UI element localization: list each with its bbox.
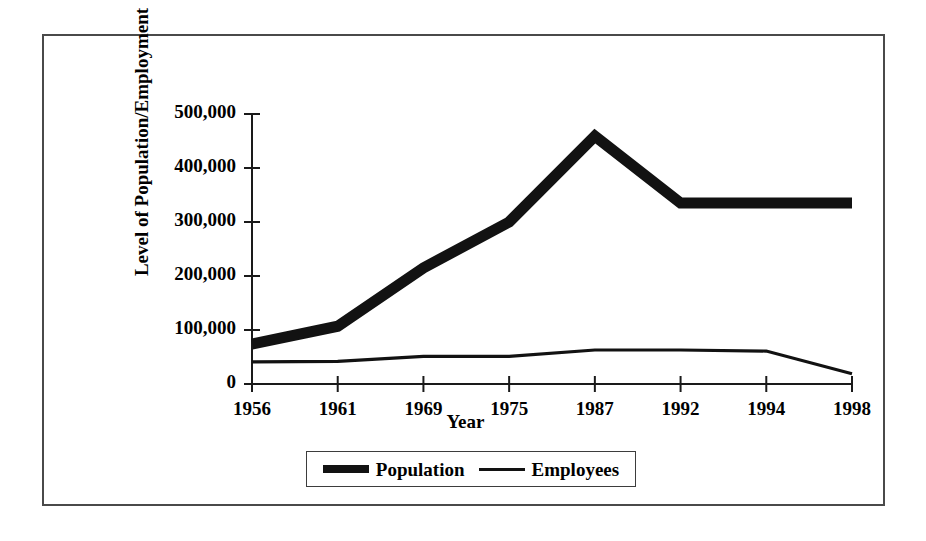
chart-legend: Population Employees (306, 451, 636, 487)
y-tick-label: 100,000 (104, 317, 236, 339)
series-line-employees (252, 350, 852, 374)
figure-frame: Level of Population/Employment 0100,0002… (42, 34, 885, 506)
y-tick-label: 0 (104, 371, 236, 393)
x-axis-title: Year (44, 411, 887, 433)
chart-page: Level of Population/Employment 0100,0002… (0, 0, 926, 541)
series-line-population (252, 136, 852, 344)
thin-line-swatch (479, 468, 525, 471)
y-tick-label: 400,000 (104, 155, 236, 177)
y-tick-label: 200,000 (104, 263, 236, 285)
legend-label-employees: Employees (532, 460, 620, 479)
legend-label-population: Population (376, 460, 465, 479)
series-group (252, 136, 852, 374)
legend-item-employees: Employees (479, 460, 620, 479)
thick-line-swatch (323, 465, 369, 473)
legend-item-population: Population (323, 460, 465, 479)
plot-area: 0100,000200,000300,000400,000500,000 195… (104, 46, 874, 406)
y-tick-label: 500,000 (104, 101, 236, 123)
y-tick-label: 300,000 (104, 209, 236, 231)
